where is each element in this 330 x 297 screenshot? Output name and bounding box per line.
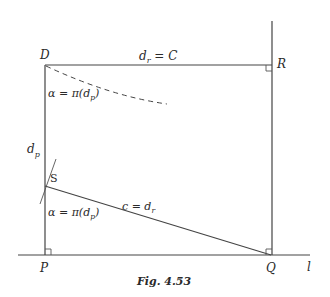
figure-caption: Fig. 4.53 bbox=[136, 275, 191, 288]
right-angle-p bbox=[45, 249, 51, 255]
point-q-label: Q bbox=[266, 261, 276, 275]
segment-sq bbox=[45, 186, 271, 255]
geometry-figure: D R P Q S l dr = C α = π(dp) dp c = dr α… bbox=[0, 0, 330, 297]
angle-top-label: α = π(dp) bbox=[48, 87, 99, 102]
right-angle-r bbox=[266, 65, 272, 71]
top-segment-label: dr = C bbox=[139, 49, 177, 65]
left-segment-label: dp bbox=[27, 142, 40, 159]
point-d-label: D bbox=[39, 48, 50, 62]
line-l-label: l bbox=[307, 260, 311, 274]
angle-bottom-label: α = π(dp) bbox=[48, 206, 99, 221]
point-s-label: S bbox=[50, 172, 58, 185]
hyp-segment-label: c = dr bbox=[122, 200, 155, 215]
point-r-label: R bbox=[276, 57, 286, 71]
point-p-label: P bbox=[39, 261, 49, 275]
